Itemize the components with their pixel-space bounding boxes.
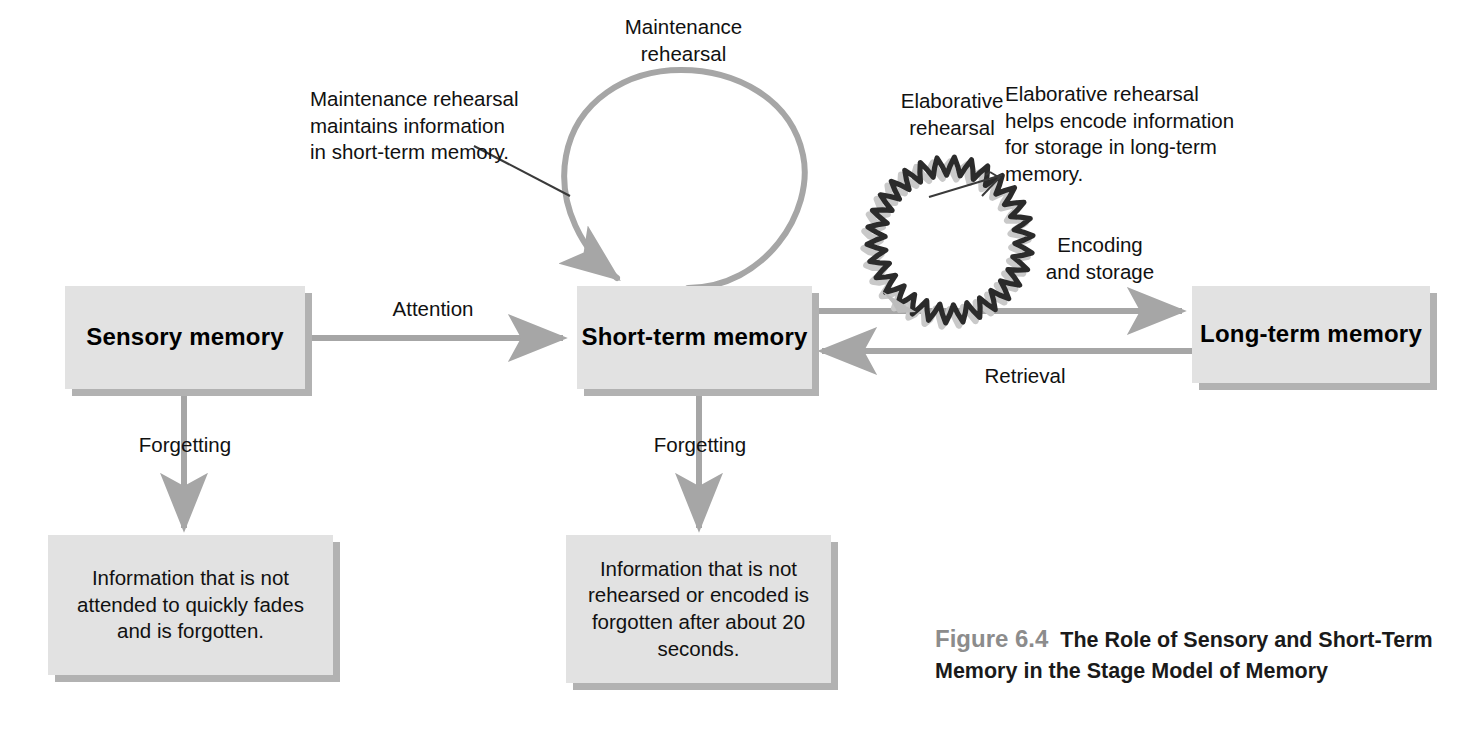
stage-label-long-term-memory: Long-term memory: [1200, 320, 1422, 348]
stage-box-short-term-memory[interactable]: Short-term memory: [577, 286, 812, 389]
outcome-label-sensory: Information that is not attended to quic…: [48, 565, 333, 645]
outcome-label-short-term: Information that is not rehearsed or enc…: [566, 556, 831, 663]
flow-label-forgetting-sensory: Forgetting: [110, 432, 260, 459]
flow-label-attention: Attention: [358, 296, 508, 323]
figure-caption: Figure 6.4 The Role of Sensory and Short…: [935, 622, 1455, 686]
stage-label-short-term-memory: Short-term memory: [581, 323, 807, 351]
outcome-box-sensory[interactable]: Information that is not attended to quic…: [48, 535, 333, 675]
stage-box-long-term-memory[interactable]: Long-term memory: [1192, 286, 1430, 383]
stage-label-sensory-memory: Sensory memory: [86, 323, 284, 351]
annotation-elaborative-rehearsal: Elaborative rehearsal helps encode infor…: [1005, 81, 1295, 188]
outcome-box-short-term[interactable]: Information that is not rehearsed or enc…: [566, 535, 831, 683]
flow-label-encoding-and-storage: Encoding and storage: [1010, 232, 1190, 285]
memory-stage-model-figure: Sensory memory Short-term memory Long-te…: [0, 0, 1477, 730]
figure-number: Figure 6.4: [935, 625, 1048, 652]
flow-label-retrieval: Retrieval: [955, 363, 1095, 390]
loop-label-maintenance-rehearsal: Maintenance rehearsal: [601, 14, 766, 67]
flow-label-forgetting-short-term: Forgetting: [625, 432, 775, 459]
annotation-maintenance-rehearsal: Maintenance rehearsal maintains informat…: [310, 86, 610, 166]
stage-box-sensory-memory[interactable]: Sensory memory: [65, 286, 305, 389]
